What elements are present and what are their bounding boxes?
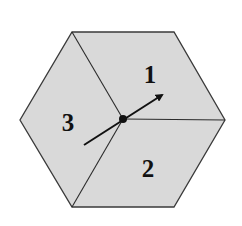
hexagon-diagram: 1 2 3 [0,0,242,226]
face-label-3: 3 [62,109,75,136]
face-label-2: 2 [142,155,155,182]
center-dot [119,115,127,123]
face-label-1: 1 [144,61,157,88]
